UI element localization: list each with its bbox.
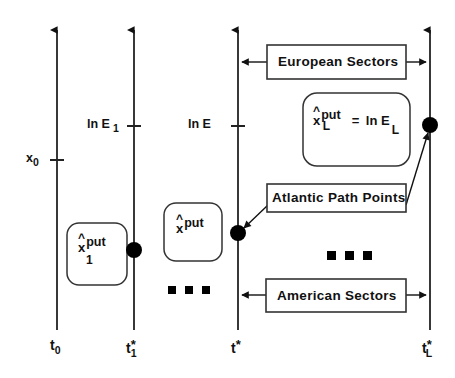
- axis-tstar: [231, 30, 245, 330]
- atlantic-path-points-label: Atlantic Path Points: [272, 191, 401, 205]
- path-point-marker-tLstar: [422, 117, 438, 133]
- time-label-tLstar: t*L: [422, 338, 432, 359]
- formula-x1-put: ^x put 1: [78, 241, 105, 268]
- formula-equals: =: [352, 113, 360, 128]
- formula-rhs: ln E: [366, 113, 390, 128]
- hat-variable-3: ^x: [313, 114, 320, 127]
- formula-xL-put: ^x putL = ln EL: [313, 114, 399, 128]
- ellipsis-mid-right: [327, 251, 372, 260]
- axis-value-label-lnE1: ln E1: [87, 118, 119, 134]
- formula-x-put: ^x put: [176, 222, 203, 236]
- time-label-t1star: t*1: [126, 338, 137, 359]
- hat-variable-1: ^x: [78, 241, 85, 254]
- formula-rhs-sub: L: [392, 123, 399, 137]
- time-label-tstar: t*: [231, 338, 241, 355]
- ellipsis-mid-left: [168, 286, 210, 294]
- diagram-canvas: x0 ln E1 ln E t0 t*1 t* t*L European Sec…: [0, 0, 455, 378]
- american-sectors-label: American Sectors: [277, 289, 395, 303]
- axis-value-label-lnE: ln E: [188, 118, 211, 131]
- axis-t1star: [127, 30, 141, 330]
- hat-variable-2: ^x: [176, 222, 183, 235]
- european-sectors-label: European Sectors: [278, 55, 395, 69]
- time-label-t0: t0: [50, 338, 61, 356]
- axis-t0: [50, 30, 64, 330]
- axis-value-label-x0: x0: [26, 152, 39, 168]
- path-point-marker-tstar: [230, 225, 246, 241]
- path-point-marker-t1star: [126, 242, 142, 258]
